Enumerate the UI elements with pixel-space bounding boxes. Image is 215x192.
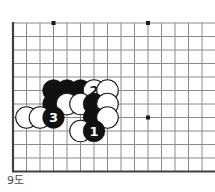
star-point [146,116,150,120]
move-number-label: 3 [49,110,58,125]
black-stone[interactable]: 3 [43,107,65,129]
black-stone[interactable]: 1 [83,120,105,142]
go-diagram: 231 9도 [0,0,215,192]
star-point [146,21,150,25]
star-point [52,21,56,25]
figure-caption: 9도 [7,174,24,188]
go-board[interactable]: 231 [0,0,215,192]
move-number-label: 1 [89,124,98,139]
